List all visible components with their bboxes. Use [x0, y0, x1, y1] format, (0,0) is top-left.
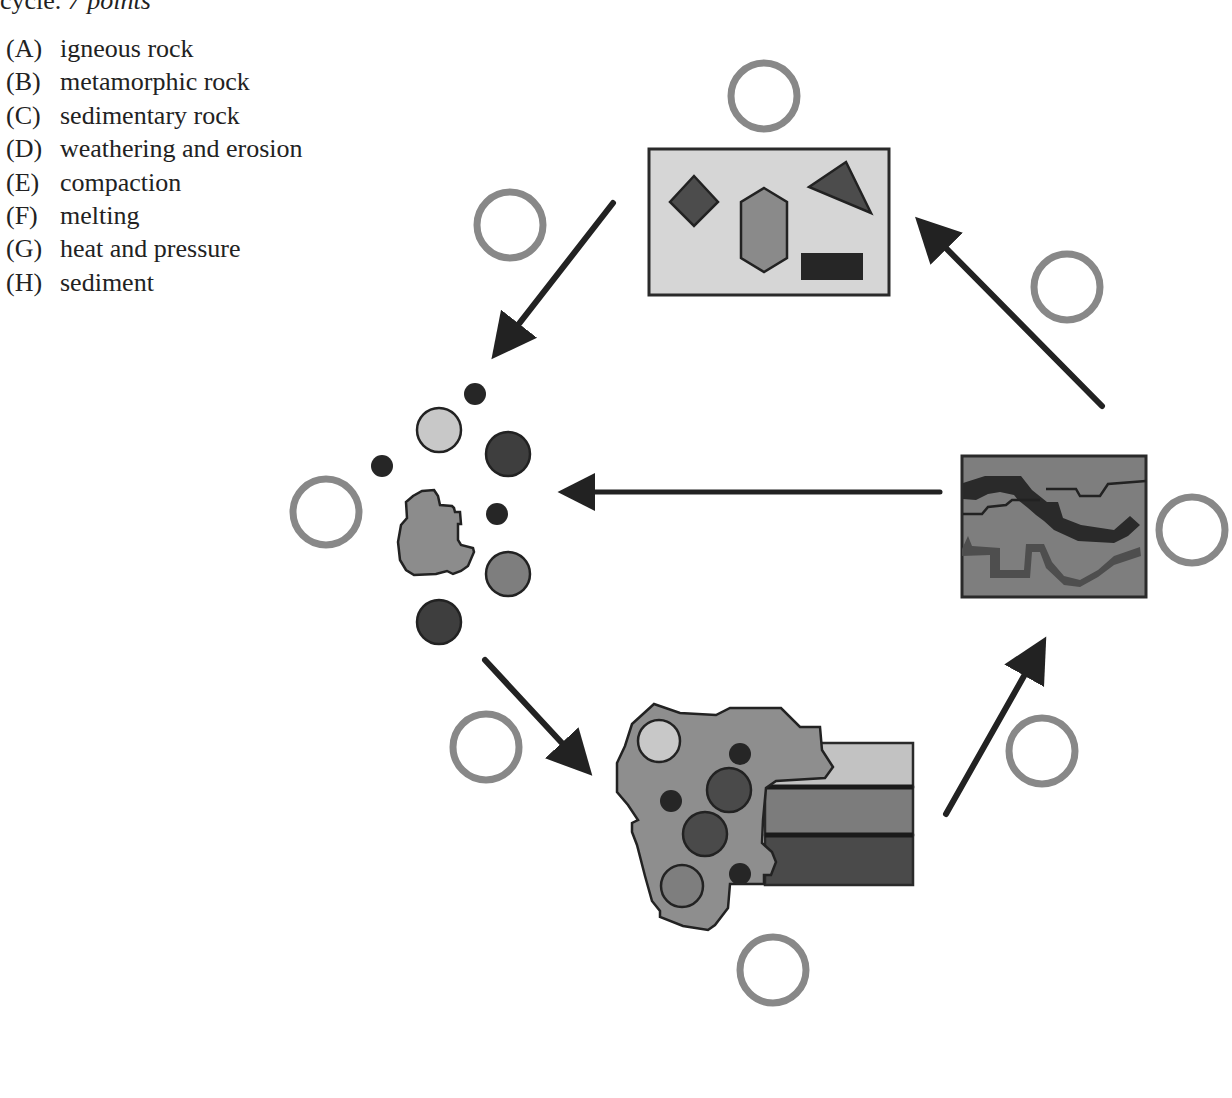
hexagon-crystal-icon [741, 188, 787, 272]
pebble-icon [486, 432, 530, 476]
answer-blank-metamorphic[interactable] [1159, 497, 1225, 563]
pebble-icon [660, 790, 682, 812]
answer-blank-melting-arrow[interactable] [1034, 254, 1100, 320]
pebble-icon [638, 720, 680, 762]
rock-fragment-icon [398, 490, 474, 575]
pebble-icon [417, 408, 461, 452]
answer-blank-igneous[interactable] [731, 63, 797, 129]
metamorphic-rock-illustration [962, 456, 1146, 597]
pebble-icon [661, 865, 703, 907]
pebble-icon [707, 768, 751, 812]
answer-blank-sediment[interactable] [293, 479, 359, 545]
pebble-icon [371, 455, 393, 477]
igneous-rock-illustration [649, 149, 889, 295]
answer-blank-sedimentary[interactable] [740, 937, 806, 1003]
pebble-icon [464, 383, 486, 405]
sedimentary-rock-illustration [617, 704, 913, 930]
sediment-illustration [371, 383, 530, 644]
answer-blank-heat-pressure-arrow[interactable] [1009, 718, 1075, 784]
pebble-icon [729, 863, 751, 885]
rectangle-crystal-icon [801, 253, 863, 280]
answer-blank-weathering-arrow[interactable] [477, 192, 543, 258]
pebble-icon [486, 503, 508, 525]
pebble-icon [683, 812, 727, 856]
answer-blank-compaction-arrow[interactable] [453, 714, 519, 780]
rock-cycle-diagram [0, 0, 1232, 1098]
pebble-icon [486, 552, 530, 596]
pebble-icon [729, 743, 751, 765]
pebble-icon [417, 600, 461, 644]
